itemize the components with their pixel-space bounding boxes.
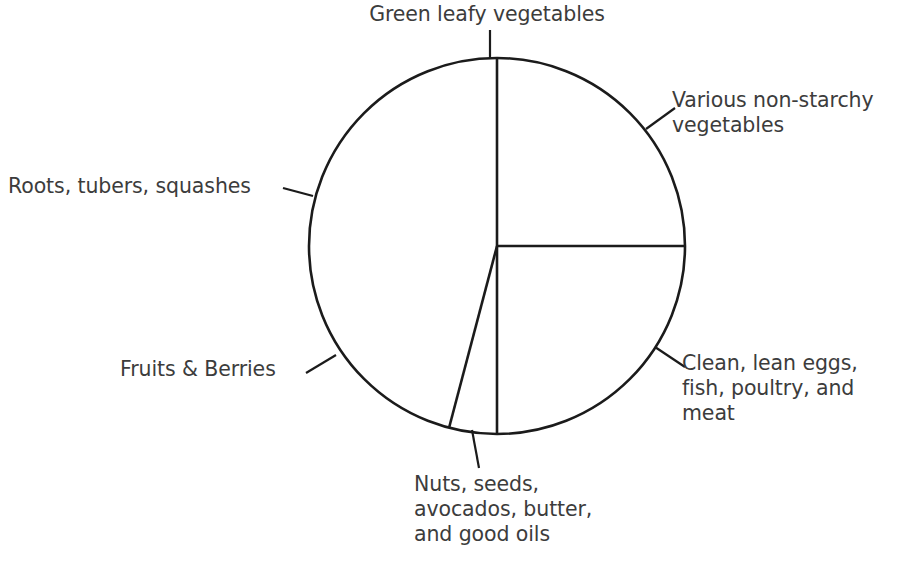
slice-label-fruits-and-berries: Fruits & Berries [120, 357, 302, 382]
pie-chart-container: Green leafy vegetables Various non-starc… [0, 0, 900, 567]
leader-line-various-non-starchy [646, 108, 675, 129]
slice-label-clean-lean-eggs-fish-poultry-meat: Clean, lean eggs, fish, poultry, and mea… [682, 351, 897, 426]
slice-label-green-leafy-vegetables: Green leafy vegetables [352, 2, 622, 27]
slice-label-various-non-starchy-vegetables: Various non-starchy vegetables [672, 88, 897, 138]
slice-label-nuts-seeds-avocados-butter-oils: Nuts, seeds, avocados, butter, and good … [414, 472, 639, 547]
slice-label-roots-tubers-squashes: Roots, tubers, squashes [8, 174, 283, 199]
leader-line-roots-tubers [283, 188, 313, 196]
leader-line-fruits-berries [306, 355, 336, 373]
leader-line-clean-lean [655, 347, 685, 367]
leader-line-nuts-seeds [472, 430, 479, 468]
